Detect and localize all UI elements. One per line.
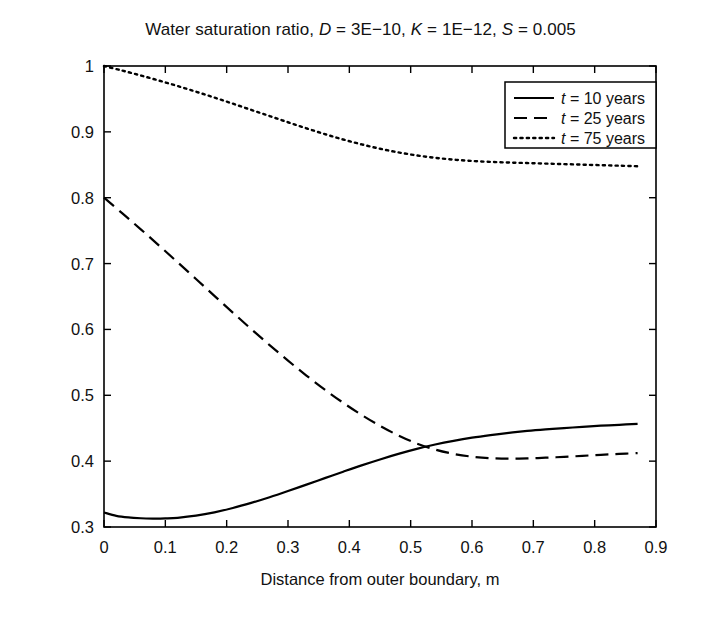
x-axis-label: Distance from outer boundary, m: [104, 570, 656, 589]
x-tick-label: 0.9: [645, 538, 668, 556]
legend-label: t = 10 years: [561, 90, 645, 107]
y-tick-label: 0.3: [71, 518, 94, 536]
chart-figure: Water saturation ratio, D = 3E−10, K = 1…: [0, 0, 721, 628]
legend-box: t = 10 yearst = 25 yearst = 75 years: [505, 82, 656, 148]
x-tick-label: 0.4: [338, 538, 361, 556]
legend-label: t = 25 years: [561, 110, 645, 127]
y-tick-label: 0.7: [71, 255, 94, 273]
y-tick-label: 0.5: [71, 386, 94, 404]
x-tick-label: 0.6: [461, 538, 484, 556]
y-tick-label: 0.8: [71, 189, 94, 207]
legend-value: = 10 years: [565, 90, 645, 107]
legend-value: = 25 years: [565, 110, 645, 127]
y-tick-label: 0.4: [71, 452, 94, 470]
x-tick-label: 0.5: [399, 538, 422, 556]
legend-label: t = 75 years: [561, 130, 645, 147]
legend-value: = 75 years: [565, 130, 645, 147]
x-tick-label: 0.1: [154, 538, 177, 556]
series-line-solid: [104, 424, 638, 519]
x-tick-label: 0.3: [277, 538, 300, 556]
y-tick-label: 0.6: [71, 320, 94, 338]
y-tick-label: 0.9: [71, 123, 94, 141]
x-tick-label: 0.2: [215, 538, 238, 556]
x-tick-label: 0.8: [583, 538, 606, 556]
plot-area: 00.10.20.30.40.50.60.70.80.90.30.40.50.6…: [0, 0, 721, 628]
y-tick-label: 1: [85, 57, 94, 75]
x-tick-label: 0: [99, 538, 108, 556]
x-tick-label: 0.7: [522, 538, 545, 556]
series-line-dashed: [104, 198, 638, 459]
